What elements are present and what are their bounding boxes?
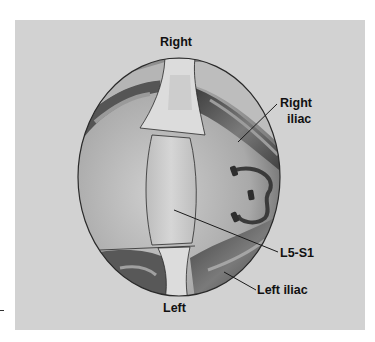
- lower-left-vessel: [100, 250, 168, 300]
- surgical-field: [70, 50, 290, 310]
- l5-s1-disc: [146, 135, 196, 245]
- label-right-iliac-1: Right: [280, 97, 312, 110]
- label-l5-s1: L5-S1: [280, 247, 314, 260]
- anatomical-illustration: [0, 0, 375, 342]
- margin-tick-mark: [0, 310, 4, 311]
- label-right: Right: [160, 36, 192, 49]
- label-left: Left: [163, 302, 186, 315]
- label-left-iliac: Left iliac: [257, 284, 308, 297]
- label-right-iliac-2: iliac: [287, 113, 311, 126]
